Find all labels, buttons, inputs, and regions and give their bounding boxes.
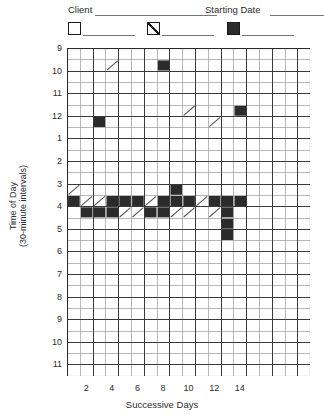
y-axis-title: Time of Day (30-minute intervals)	[8, 136, 28, 276]
y-axis-tick-10: 10	[40, 338, 62, 347]
worksheet-page: Client Starting Date 9101112123456789101…	[0, 0, 324, 415]
y-axis-tick-9: 9	[40, 44, 62, 53]
x-axis-tick-14: 14	[230, 384, 250, 393]
time-of-day-grid-chart: 91011121234567891011 2468101214 Successi…	[0, 0, 324, 415]
y-axis-tick-1: 1	[40, 134, 62, 143]
y-axis-tick-11: 11	[40, 360, 62, 369]
y-axis-tick-12: 12	[40, 112, 62, 121]
x-axis-title: Successive Days	[0, 399, 324, 410]
y-axis-tick-labels: 91011121234567891011	[30, 0, 62, 415]
y-axis-tick-11: 11	[40, 89, 62, 98]
grid-canvas[interactable]	[67, 48, 310, 376]
y-axis-tick-8: 8	[40, 293, 62, 302]
x-axis-tick-10: 10	[179, 384, 199, 393]
x-axis-tick-6: 6	[127, 384, 147, 393]
plot-grid[interactable]	[67, 48, 310, 376]
y-axis-tick-5: 5	[40, 225, 62, 234]
x-axis-tick-12: 12	[204, 384, 224, 393]
x-axis-tick-8: 8	[153, 384, 173, 393]
y-axis-tick-4: 4	[40, 202, 62, 211]
y-axis-tick-10: 10	[40, 67, 62, 76]
x-axis-tick-2: 2	[76, 384, 96, 393]
y-axis-tick-2: 2	[40, 157, 62, 166]
y-axis-tick-3: 3	[40, 180, 62, 189]
y-axis-tick-6: 6	[40, 247, 62, 256]
y-axis-tick-7: 7	[40, 270, 62, 279]
x-axis-tick-labels: 2468101214	[0, 384, 324, 398]
x-axis-tick-4: 4	[102, 384, 122, 393]
y-axis-tick-9: 9	[40, 315, 62, 324]
